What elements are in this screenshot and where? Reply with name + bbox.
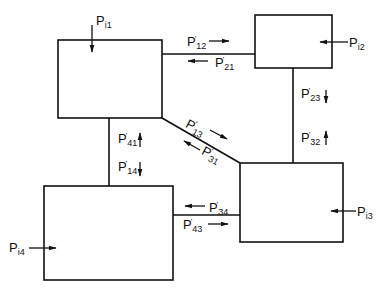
arrow-icon-flow-13 [210, 130, 227, 139]
input-label-3: Pi3 [357, 205, 373, 221]
flow-label-21: P'21 [215, 56, 234, 72]
flow-label-23: P'23 [301, 87, 320, 103]
flow-label-41: P'41 [118, 132, 137, 148]
arrow-icon-flow-31 [184, 141, 200, 150]
input-label-4: Pi4 [9, 241, 25, 257]
input-label-2: Pi2 [349, 36, 365, 52]
node-box-4 [44, 186, 173, 280]
flow-label-14: P'14 [118, 160, 137, 176]
node-box-1 [58, 40, 162, 118]
flow-label-32: P'32 [301, 131, 320, 147]
flow-label-43: P'43 [183, 218, 202, 234]
flow-label-34: P'34 [209, 201, 228, 217]
node-box-3 [240, 163, 343, 242]
input-label-1: Pi1 [96, 14, 112, 30]
flow-label-12: P'12 [187, 35, 206, 51]
